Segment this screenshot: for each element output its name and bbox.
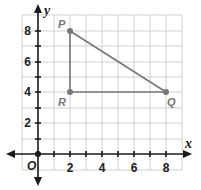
x-tick-label: 6: [131, 161, 138, 175]
point-r: [67, 89, 73, 95]
point-q-label: Q: [167, 96, 176, 108]
x-axis-arrow-left-icon: [6, 150, 15, 158]
y-tick-label: 8: [24, 24, 31, 38]
origin-label: O: [27, 159, 37, 173]
x-axis-arrow-right-icon: [183, 150, 192, 158]
y-tick-label: 6: [24, 55, 31, 69]
point-p-label: P: [58, 18, 66, 30]
x-tick-label: 8: [163, 161, 170, 175]
coordinate-plane: 2 4 6 8 2 4 6 8 O x y P R Q: [0, 0, 201, 190]
y-axis-arrow-up-icon: [34, 4, 42, 13]
y-axis-label: y: [42, 3, 51, 18]
y-axis-arrow-down-icon: [34, 177, 42, 186]
point-r-label: R: [58, 96, 66, 108]
x-tick-label: 4: [99, 161, 106, 175]
y-tick-label: 4: [24, 85, 31, 99]
point-q: [163, 89, 169, 95]
origin-point: [35, 151, 41, 157]
y-tick-label: 2: [24, 116, 31, 130]
x-tick-label: 2: [67, 161, 74, 175]
point-p: [67, 28, 73, 34]
x-axis-label: x: [184, 136, 192, 151]
